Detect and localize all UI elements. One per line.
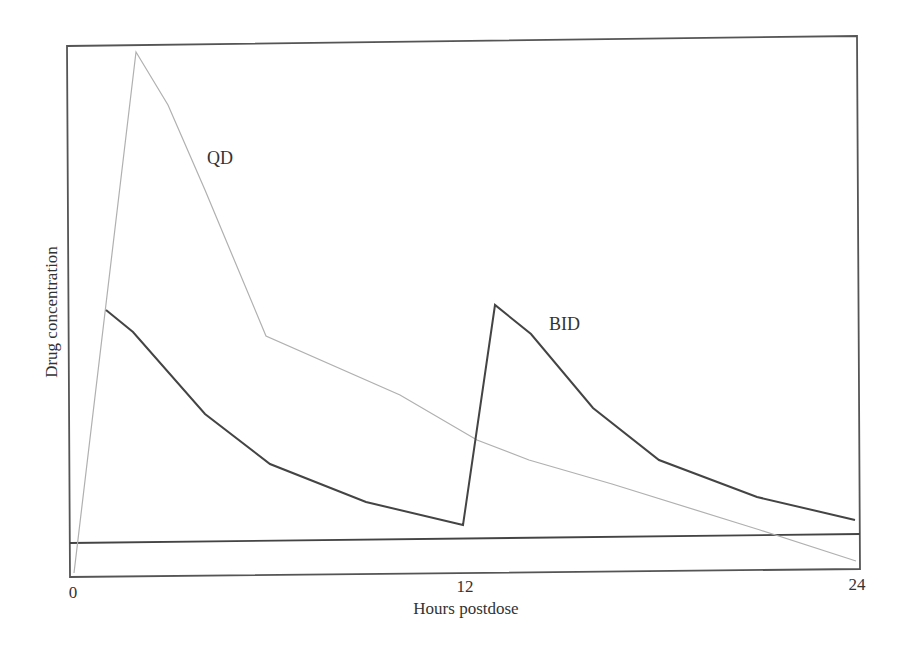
x-axis-title: Hours postdose: [413, 599, 518, 618]
x-tick-12: 12: [457, 577, 474, 596]
plot-frame: [67, 36, 860, 577]
y-axis-title: Drug concentration: [42, 246, 61, 378]
threshold-line: [70, 534, 860, 543]
qd-series-line: [74, 52, 856, 573]
bid-series-line: [106, 305, 855, 525]
pk-line-chart: QD BID 0 12 24 Hours postdose Drug conce…: [0, 0, 906, 652]
qd-label: QD: [207, 148, 233, 168]
bid-label: BID: [549, 314, 580, 334]
x-tick-24: 24: [849, 575, 867, 594]
x-tick-0: 0: [69, 583, 78, 602]
